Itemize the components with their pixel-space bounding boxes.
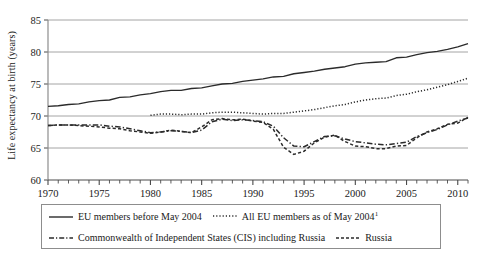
series-line-3	[48, 117, 468, 154]
legend-swatch-solid	[48, 212, 74, 222]
legend-label-eu-before-2004: EU members before May 2004	[74, 211, 212, 222]
svg-text:2010: 2010	[447, 188, 468, 199]
svg-text:1995: 1995	[294, 188, 315, 199]
legend-label-cis: Commonwealth of Independent States (CIS)…	[74, 232, 335, 243]
svg-text:1970: 1970	[38, 188, 59, 199]
x-axis-ticks	[48, 180, 468, 185]
series-line-0	[48, 44, 468, 107]
legend-item-all-eu-2004: All EU members as of May 20041	[212, 210, 388, 222]
x-axis-tick-labels: 197019751980198519901995200020052010	[38, 188, 469, 199]
svg-text:2000: 2000	[345, 188, 366, 199]
plot-area: 606570758085 197019751980198519901995200…	[0, 0, 482, 204]
y-axis-tick-labels: 606570758085	[31, 15, 42, 186]
gridlines	[48, 20, 468, 148]
legend-item-cis: Commonwealth of Independent States (CIS)…	[48, 232, 335, 243]
svg-text:60: 60	[31, 175, 42, 186]
svg-text:65: 65	[31, 143, 42, 154]
legend-swatch-dotted	[212, 211, 238, 221]
legend-swatch-dash-dot	[48, 233, 74, 243]
data-series-layer	[48, 44, 468, 155]
svg-text:75: 75	[31, 79, 42, 90]
legend-item-russia: Russia	[335, 232, 402, 243]
legend-item-eu-before-2004: EU members before May 2004	[48, 211, 212, 222]
legend-row-1: EU members before May 2004 All EU member…	[42, 206, 440, 227]
series-line-2	[48, 118, 468, 147]
legend-label-all-eu-2004: All EU members as of May 20041	[238, 210, 388, 222]
legend-label-all-eu-2004-text: All EU members as of May 2004	[242, 212, 375, 223]
legend: EU members before May 2004 All EU member…	[41, 204, 441, 249]
svg-text:1975: 1975	[89, 188, 110, 199]
legend-row-2: Commonwealth of Independent States (CIS)…	[42, 227, 440, 248]
legend-swatch-dashed	[335, 233, 361, 243]
svg-text:2005: 2005	[396, 188, 417, 199]
y-axis-label-container: Life expectancy at birth (years)	[0, 0, 22, 190]
legend-label-russia: Russia	[361, 232, 402, 243]
svg-text:1985: 1985	[191, 188, 212, 199]
svg-text:80: 80	[31, 47, 42, 58]
svg-text:1980: 1980	[140, 188, 161, 199]
y-axis-label: Life expectancy at birth (years)	[6, 31, 17, 160]
svg-text:70: 70	[31, 111, 42, 122]
legend-footnote-marker: 1	[375, 210, 379, 218]
svg-text:1990: 1990	[242, 188, 263, 199]
life-expectancy-chart: Life expectancy at birth (years) 6065707…	[0, 0, 482, 259]
svg-text:85: 85	[31, 15, 42, 26]
